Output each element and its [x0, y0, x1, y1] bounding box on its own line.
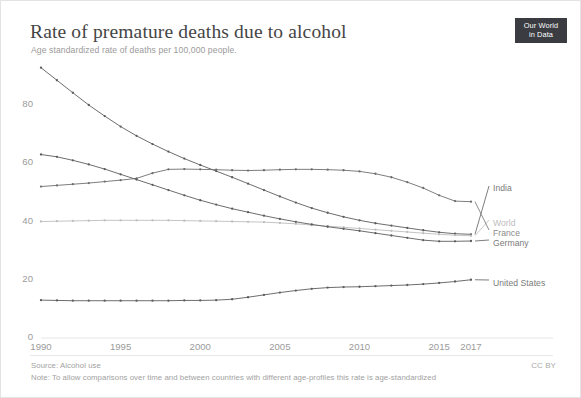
data-point[interactable]	[406, 227, 408, 229]
data-point[interactable]	[247, 296, 249, 298]
data-point[interactable]	[279, 222, 281, 224]
data-point[interactable]	[438, 282, 440, 284]
data-point[interactable]	[438, 194, 440, 196]
data-point[interactable]	[342, 169, 344, 171]
data-point[interactable]	[422, 232, 424, 234]
data-point[interactable]	[263, 294, 265, 296]
data-point[interactable]	[247, 221, 249, 223]
data-point[interactable]	[406, 237, 408, 239]
data-point[interactable]	[327, 212, 329, 214]
data-point[interactable]	[88, 300, 90, 302]
data-point[interactable]	[406, 284, 408, 286]
data-point[interactable]	[247, 182, 249, 184]
data-point[interactable]	[358, 170, 360, 172]
data-point[interactable]	[295, 223, 297, 225]
series-label-united-states[interactable]: United States	[493, 278, 545, 288]
data-point[interactable]	[454, 234, 456, 236]
data-point[interactable]	[119, 300, 121, 302]
data-point[interactable]	[231, 208, 233, 210]
data-point[interactable]	[247, 169, 249, 171]
data-point[interactable]	[135, 300, 137, 302]
data-point[interactable]	[279, 195, 281, 197]
data-point[interactable]	[88, 219, 90, 221]
data-point[interactable]	[358, 227, 360, 229]
data-point[interactable]	[135, 219, 137, 221]
data-point[interactable]	[215, 203, 217, 205]
data-point[interactable]	[88, 163, 90, 165]
data-point[interactable]	[119, 125, 121, 127]
data-point[interactable]	[438, 233, 440, 235]
data-point[interactable]	[167, 219, 169, 221]
data-point[interactable]	[422, 187, 424, 189]
data-point[interactable]	[422, 283, 424, 285]
data-point[interactable]	[104, 168, 106, 170]
data-point[interactable]	[390, 230, 392, 232]
data-point[interactable]	[263, 221, 265, 223]
data-point[interactable]	[342, 216, 344, 218]
data-point[interactable]	[263, 169, 265, 171]
data-point[interactable]	[295, 289, 297, 291]
data-point[interactable]	[215, 220, 217, 222]
data-point[interactable]	[406, 231, 408, 233]
data-point[interactable]	[151, 184, 153, 186]
series-label-world[interactable]: World	[493, 218, 516, 228]
data-point[interactable]	[231, 169, 233, 171]
data-point[interactable]	[342, 286, 344, 288]
data-point[interactable]	[167, 150, 169, 152]
data-point[interactable]	[390, 234, 392, 236]
data-point[interactable]	[56, 156, 58, 158]
data-point[interactable]	[40, 220, 42, 222]
data-point[interactable]	[358, 286, 360, 288]
data-point[interactable]	[231, 176, 233, 178]
data-point[interactable]	[295, 221, 297, 223]
data-point[interactable]	[167, 189, 169, 191]
data-point[interactable]	[374, 232, 376, 234]
data-point[interactable]	[327, 169, 329, 171]
data-point[interactable]	[199, 220, 201, 222]
data-point[interactable]	[374, 285, 376, 287]
data-point[interactable]	[88, 182, 90, 184]
data-point[interactable]	[358, 230, 360, 232]
data-point[interactable]	[390, 176, 392, 178]
data-point[interactable]	[199, 299, 201, 301]
data-point[interactable]	[470, 201, 472, 203]
data-point[interactable]	[72, 300, 74, 302]
data-point[interactable]	[151, 172, 153, 174]
data-point[interactable]	[40, 185, 42, 187]
data-point[interactable]	[40, 67, 42, 69]
data-point[interactable]	[183, 157, 185, 159]
data-point[interactable]	[215, 299, 217, 301]
data-point[interactable]	[104, 219, 106, 221]
data-point[interactable]	[311, 168, 313, 170]
data-point[interactable]	[454, 200, 456, 202]
data-point[interactable]	[279, 218, 281, 220]
data-point[interactable]	[72, 159, 74, 161]
data-point[interactable]	[374, 222, 376, 224]
data-point[interactable]	[119, 173, 121, 175]
data-point[interactable]	[183, 168, 185, 170]
license-text[interactable]: CC BY	[531, 361, 556, 370]
data-point[interactable]	[135, 178, 137, 180]
data-point[interactable]	[104, 115, 106, 117]
data-point[interactable]	[199, 164, 201, 166]
data-point[interactable]	[422, 229, 424, 231]
data-point[interactable]	[311, 207, 313, 209]
data-point[interactable]	[183, 219, 185, 221]
data-point[interactable]	[215, 169, 217, 171]
data-point[interactable]	[56, 299, 58, 301]
data-point[interactable]	[56, 220, 58, 222]
data-point[interactable]	[374, 173, 376, 175]
data-point[interactable]	[470, 279, 472, 281]
data-point[interactable]	[40, 299, 42, 301]
data-point[interactable]	[311, 288, 313, 290]
data-point[interactable]	[40, 153, 42, 155]
data-point[interactable]	[470, 235, 472, 237]
data-point[interactable]	[390, 284, 392, 286]
data-point[interactable]	[390, 224, 392, 226]
data-point[interactable]	[104, 180, 106, 182]
data-point[interactable]	[311, 223, 313, 225]
data-point[interactable]	[454, 280, 456, 282]
data-point[interactable]	[199, 199, 201, 201]
data-point[interactable]	[183, 299, 185, 301]
data-point[interactable]	[295, 201, 297, 203]
